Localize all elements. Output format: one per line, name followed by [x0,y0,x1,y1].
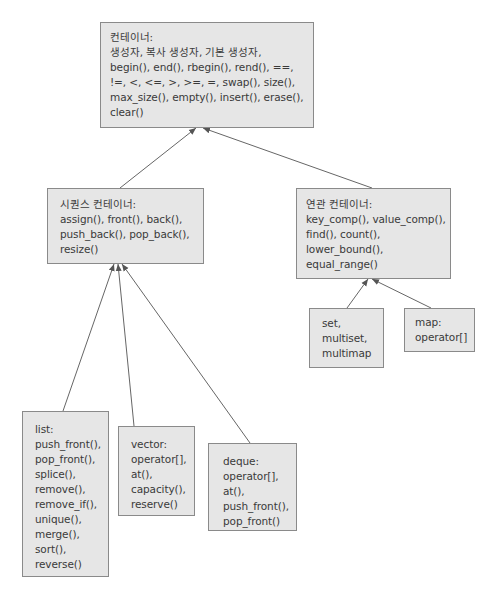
sequence-title: 시퀀스 컨테이너: [60,197,203,212]
container-line: clear() [110,105,313,120]
map-line: operator[] [415,330,474,345]
associative-line: lower_bound(), [306,242,450,257]
sequence-line: push_back(), pop_back(), [60,227,203,242]
container-line: !=, <, <=, >, >=, =, swap(), size(), [110,75,313,90]
deque-line: pop_front() [223,514,296,529]
arrow-deque-to-sequence [122,264,250,443]
arrow-set-to-associative [347,279,368,308]
deque-box: deque: operator[], at(), push_front(), p… [208,443,297,531]
list-line: remove_if(), [35,497,108,512]
associative-line: equal_range() [306,257,450,272]
arrow-vector-to-sequence [118,264,134,426]
associative-line: find(), count(), [306,227,450,242]
container-line: 생성자, 복사 생성자, 기본 생성자, [110,45,313,60]
arrow-sequence-to-container [120,128,196,188]
vector-line: reserve() [131,497,194,512]
list-line: remove(), [35,482,108,497]
vector-line: operator[], [131,452,194,467]
sequence-container-box: 시퀀스 컨테이너: assign(), front(), back(), pus… [47,188,204,264]
associative-line: key_comp(), value_comp(), [306,212,450,227]
deque-title: deque: [223,454,296,469]
container-box: 컨테이너: 생성자, 복사 생성자, 기본 생성자, begin(), end(… [100,22,314,128]
list-line: pop_front(), [35,452,108,467]
vector-title: vector: [131,437,194,452]
map-title: map: [415,315,474,330]
associative-title: 연관 컨테이너: [306,197,450,212]
arrow-associative-to-container [203,128,372,188]
associative-container-box: 연관 컨테이너: key_comp(), value_comp(), find(… [296,188,451,279]
list-line: push_front(), [35,437,108,452]
container-line: max_size(), empty(), insert(), erase(), [110,90,313,105]
list-title: list: [35,422,108,437]
set-line: multiset, [322,331,383,346]
set-line: set, [322,316,383,331]
list-line: sort(), [35,542,108,557]
list-box: list: push_front(), pop_front(), splice(… [22,411,109,577]
vector-line: capacity(), [131,482,194,497]
list-line: unique(), [35,512,108,527]
list-line: reverse() [35,557,108,572]
deque-line: operator[], [223,469,296,484]
vector-line: at(), [131,467,194,482]
deque-line: at(), [223,484,296,499]
sequence-line: resize() [60,242,203,257]
deque-line: push_front(), [223,499,296,514]
list-line: merge(), [35,527,108,542]
container-title: 컨테이너: [110,30,313,45]
map-box: map: operator[] [404,308,475,352]
container-line: begin(), end(), rbegin(), rend(), ==, [110,60,313,75]
sequence-line: assign(), front(), back(), [60,212,203,227]
arrow-list-to-sequence [63,264,114,411]
arrow-map-to-associative [372,279,431,308]
set-line: multimap [322,346,383,361]
vector-box: vector: operator[], at(), capacity(), re… [118,426,195,516]
list-line: splice(), [35,467,108,482]
set-multiset-multimap-box: set, multiset, multimap [309,308,384,368]
